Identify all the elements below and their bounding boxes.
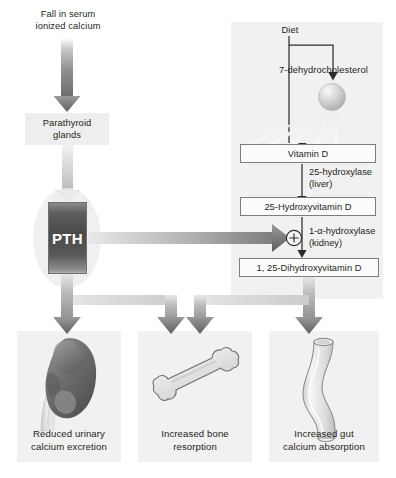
arrow-fall-to-parathyroid	[54, 38, 81, 112]
parathyroid-glands-label: Parathyroid glands	[25, 117, 109, 141]
outcome-gut-line2: calcium absorption	[266, 440, 382, 453]
pth-node: PTH	[48, 202, 87, 274]
outcome-caption-gut: Increased gut calcium absorption	[266, 427, 382, 453]
outcome-bone-line1: Increased bone	[140, 427, 250, 440]
arrow-calcitriol-to-outcomes	[186, 276, 323, 334]
plus-node-icon	[286, 230, 301, 245]
vitamin-d-box: Vitamin D	[240, 144, 376, 163]
enzyme-25-hydroxylase-label: 25-hydroxylase (liver)	[309, 166, 393, 191]
fall-in-serum-line1: Fall in serum	[12, 8, 124, 20]
outcome-caption-bone: Increased bone resorption	[140, 427, 250, 453]
outcome-kidney-line2: calcium excretion	[13, 440, 125, 453]
dihydroxyvitamin-d-box: 1, 25-Dihydroxyvitamin D	[239, 258, 379, 277]
pth-label: PTH	[52, 230, 83, 247]
fall-in-serum-line2: ionized calcium	[12, 20, 124, 32]
outcome-gut-line1: Increased gut	[266, 427, 382, 440]
parathyroid-glands-line2: glands	[25, 129, 109, 141]
outcome-caption-kidney: Reduced urinary calcium excretion	[13, 427, 125, 453]
hydroxyvitamin-d-box: 25-Hydroxyvitamin D	[240, 197, 376, 216]
arrow-pth-to-bone	[73, 295, 185, 334]
sun-sphere-icon	[319, 84, 346, 111]
dehydrocholesterol-label: 7-dehydrocholesterol	[279, 64, 387, 76]
arrow-pth-to-plus-node	[88, 224, 290, 252]
parathyroid-glands-line1: Parathyroid	[25, 117, 109, 129]
bone-icon	[153, 347, 239, 400]
kidney-icon	[41, 338, 96, 431]
outcome-bone-line2: resorption	[140, 440, 250, 453]
fall-in-serum-label: Fall in serum ionized calcium	[12, 8, 124, 32]
sunlight-rays	[247, 106, 342, 144]
diagram-canvas: Fall in serum ionized calcium Parathyroi…	[0, 0, 396, 478]
outcome-kidney-line1: Reduced urinary	[13, 427, 125, 440]
enzyme-1-alpha-hydroxylase-label: 1-α-hydroxylase (kidney)	[309, 225, 395, 250]
diet-label: Diet	[268, 24, 312, 36]
